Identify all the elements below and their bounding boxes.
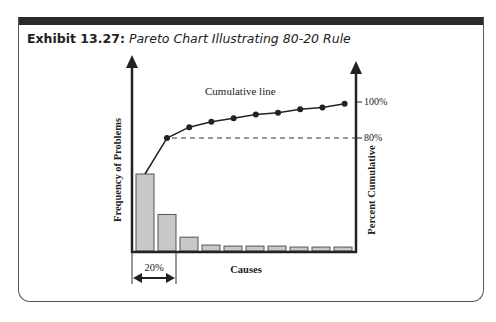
cumulative-point (319, 104, 325, 110)
cumulative-point (342, 101, 348, 107)
cumulative-point (231, 115, 237, 121)
bars (136, 174, 352, 251)
bar (312, 247, 330, 251)
cumulative-line (145, 101, 348, 174)
y-axis-right-label: Percent Cumulative (366, 145, 377, 235)
cumulative-line-label: Cumulative line (205, 85, 276, 97)
bar (246, 246, 264, 251)
cumulative-point (164, 135, 170, 141)
bar (180, 237, 198, 251)
bar (158, 214, 176, 251)
cumulative-point (275, 110, 281, 116)
bar (202, 245, 220, 251)
cumulative-point (186, 124, 192, 130)
y-axis-left-label: Frequency of Problems (112, 118, 123, 222)
arrow-right-icon (166, 273, 175, 283)
arrow-up-icon (350, 61, 362, 74)
bar (224, 246, 242, 251)
tick-label-100: 100% (364, 96, 387, 107)
cumulative-point (253, 112, 259, 118)
bar (136, 174, 154, 251)
bar (290, 247, 308, 251)
cumulative-point (297, 106, 303, 112)
bar (334, 247, 352, 251)
tick-label-80: 80% (364, 132, 382, 143)
bar (268, 246, 286, 251)
x-axis-label: Causes (230, 264, 262, 275)
span-label: 20% (144, 262, 164, 273)
arrow-up-icon (126, 55, 138, 68)
pareto-chart: Cumulative line 100% 80% 20% Causes Freq… (0, 0, 496, 322)
cumulative-point (208, 119, 214, 125)
arrow-left-icon (133, 273, 142, 283)
